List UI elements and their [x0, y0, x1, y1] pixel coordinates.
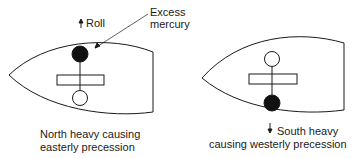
north-heavy-caption-line2: easterly precession — [40, 141, 135, 154]
left-light-south-pot — [73, 91, 88, 106]
south-heavy-caption-line2: causing westerly precession — [209, 138, 347, 151]
right-heavy-south-pot — [264, 95, 280, 111]
right-light-north-pot — [265, 52, 280, 67]
excess-mercury-label-line2: mercury — [150, 18, 190, 31]
south-arrow-icon — [268, 129, 272, 133]
left-boat — [9, 14, 153, 114]
right-gyro-rotor — [249, 74, 297, 84]
right-boat — [202, 37, 344, 133]
left-heavy-north-pot — [72, 46, 88, 62]
roll-label: Roll — [86, 17, 105, 30]
roll-arrow-icon — [79, 19, 83, 23]
south-heavy-caption-line1: South heavy — [277, 125, 338, 138]
north-heavy-caption-line1: North heavy causing — [40, 128, 140, 141]
